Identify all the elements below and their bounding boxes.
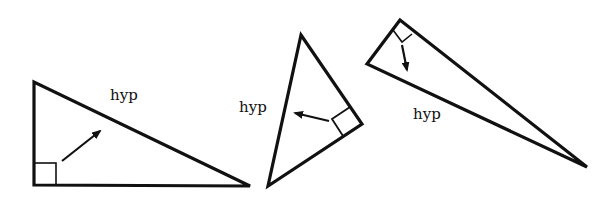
diagram-canvas: hyp hyp hyp <box>0 0 613 202</box>
triangle-1 <box>34 82 250 186</box>
triangles-drawing <box>0 0 613 202</box>
hypotenuse-label-3: hyp <box>413 107 441 122</box>
arrow-to-hypotenuse <box>402 45 407 70</box>
right-angle-marker <box>393 30 412 42</box>
triangle-3 <box>367 20 587 167</box>
arrow-to-hypotenuse <box>295 113 329 121</box>
hypotenuse-label-2: hyp <box>239 100 267 115</box>
right-angle-marker <box>332 107 350 136</box>
triangle-2 <box>268 35 362 186</box>
right-angle-marker <box>34 163 56 185</box>
arrow-to-hypotenuse <box>62 131 100 161</box>
hypotenuse-label-1: hyp <box>110 88 138 103</box>
